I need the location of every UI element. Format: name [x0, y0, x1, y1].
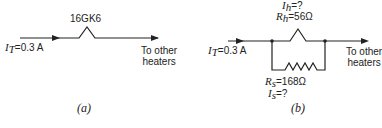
shunt-current-label: Is=? — [268, 88, 287, 101]
heater-resistance-label: Rh=56Ω — [276, 11, 313, 24]
junction-dot — [270, 39, 274, 43]
to-other-heaters-a: To other heaters — [141, 45, 177, 67]
to-other-heaters-b: To other heaters — [346, 46, 382, 68]
arrow-icon — [52, 35, 60, 41]
arrow-icon — [151, 35, 159, 41]
heater-line-a — [20, 27, 158, 38]
heater-branch-b — [228, 29, 365, 41]
caption-b: (b) — [291, 101, 305, 116]
tube-label: 16GK6 — [70, 13, 101, 24]
total-current-label-a: IT=0.3 A — [5, 42, 43, 55]
junction-dot — [323, 39, 327, 43]
total-current-label-b: IT=0.3 A — [208, 45, 246, 58]
shunt-resistor-branch — [272, 41, 325, 70]
arrow-icon — [361, 38, 369, 44]
caption-a: (a) — [77, 101, 91, 116]
arrow-icon — [236, 38, 244, 44]
